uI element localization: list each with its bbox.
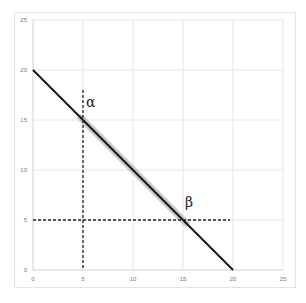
x-tick: 25	[280, 276, 287, 282]
x-tick: 20	[230, 276, 237, 282]
y-tick: 0	[24, 267, 28, 273]
y-tick: 20	[20, 67, 27, 73]
x-tick: 10	[130, 276, 137, 282]
chart-canvas: α β 0 5 10 15 20 25 0 5 10 15 20 25	[0, 0, 306, 303]
y-tick: 25	[20, 17, 27, 23]
x-tick: 0	[31, 276, 35, 282]
gridlines	[33, 20, 283, 270]
axes	[33, 20, 283, 270]
x-tick-labels: 0 5 10 15 20 25	[31, 276, 287, 282]
x-tick: 15	[180, 276, 187, 282]
beta-label: β	[185, 194, 193, 210]
x-tick: 5	[81, 276, 85, 282]
alpha-label: α	[86, 94, 96, 110]
y-tick: 15	[20, 117, 27, 123]
y-tick-labels: 0 5 10 15 20 25	[20, 17, 27, 273]
y-tick: 5	[24, 217, 28, 223]
y-tick: 10	[20, 167, 27, 173]
